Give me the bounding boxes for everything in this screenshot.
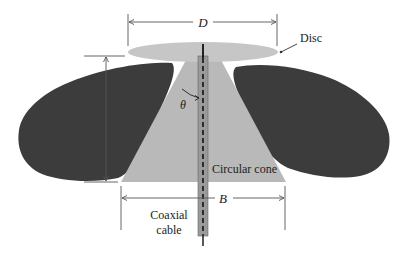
disc-pointer [281, 44, 297, 52]
label-theta: θ [180, 98, 186, 112]
label-coax-line2: cable [156, 223, 181, 237]
label-circular-cone: Circular cone [212, 162, 277, 176]
label-disc: Disc [300, 31, 322, 45]
label-B: B [219, 191, 227, 206]
label-D: D [197, 15, 208, 30]
disc-pointer-dot [280, 51, 283, 54]
label-coax-line1: Coaxial [150, 208, 188, 222]
discone-diagram: D Disc θ Circular cone B Coaxial cable [0, 0, 406, 262]
